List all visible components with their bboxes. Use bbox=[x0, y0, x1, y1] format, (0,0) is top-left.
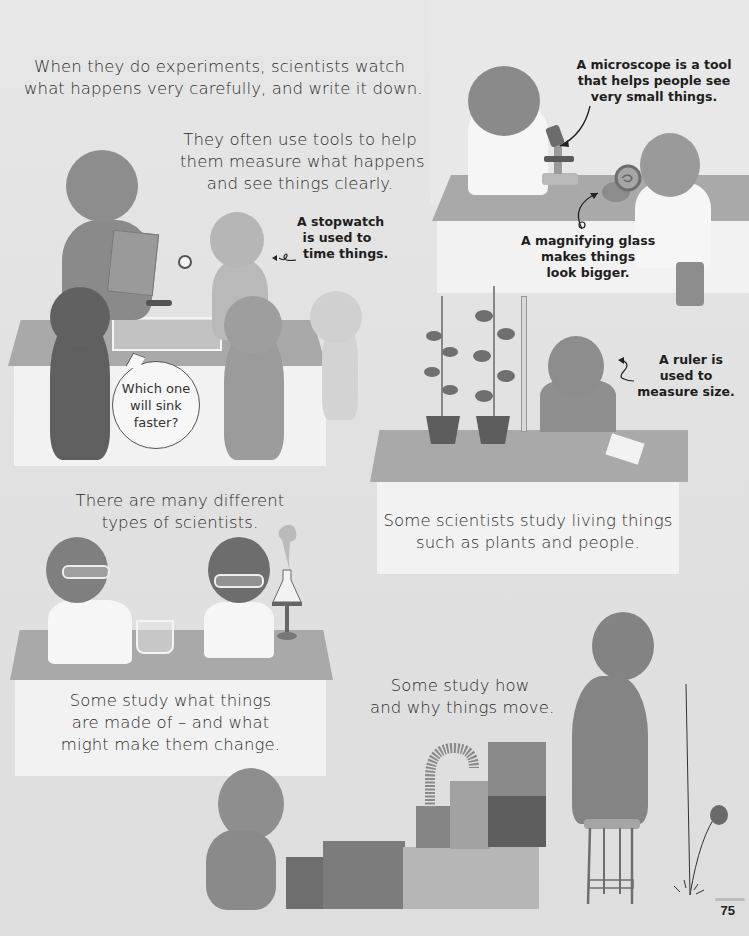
head bbox=[66, 150, 138, 222]
types-text: There are many different types of scient… bbox=[40, 490, 320, 534]
clipboard-icon bbox=[107, 230, 159, 296]
legs bbox=[676, 262, 704, 306]
head bbox=[208, 537, 270, 603]
head bbox=[548, 336, 604, 396]
materials-text: Some study what things are made of – and… bbox=[15, 690, 326, 756]
microscope-label: A microscope is a tool that helps people… bbox=[559, 57, 749, 105]
bouncing-ball bbox=[710, 805, 728, 825]
lab-coat bbox=[48, 600, 132, 664]
box bbox=[488, 795, 546, 847]
body bbox=[572, 676, 648, 824]
head bbox=[224, 296, 282, 354]
box bbox=[488, 742, 546, 796]
ruler-icon bbox=[521, 296, 527, 432]
safety-goggles bbox=[214, 574, 264, 588]
living-things-text: Some scientists study living things such… bbox=[377, 510, 679, 554]
tools-text: They often use tools to help them measur… bbox=[180, 129, 420, 195]
speech-bubble: Which one will sink faster? bbox=[112, 361, 200, 449]
water-tank bbox=[112, 317, 222, 351]
head bbox=[210, 212, 264, 268]
tomato-plants-icon bbox=[418, 286, 528, 446]
head bbox=[468, 66, 540, 136]
beaker-icon bbox=[136, 620, 174, 654]
flask-on-burner-icon bbox=[268, 530, 308, 650]
stopwatch-pointer-arrow-icon bbox=[270, 252, 306, 266]
lab-coat bbox=[204, 602, 274, 658]
body bbox=[206, 830, 276, 910]
slinky-spring-icon bbox=[422, 740, 482, 810]
magnifying-glass-label: A magnifying glass makes things look big… bbox=[508, 233, 668, 281]
magnifying-pointer-arrow-icon bbox=[570, 185, 610, 231]
safety-goggles bbox=[62, 565, 110, 579]
head bbox=[640, 133, 700, 197]
movement-text: Some study how and why things move. bbox=[370, 675, 550, 719]
intro-text: When they do experiments, scientists wat… bbox=[24, 56, 424, 100]
key-icon bbox=[146, 300, 172, 306]
stopwatch-label: A stopwatch is used to time things. bbox=[297, 214, 377, 262]
box bbox=[416, 806, 452, 848]
head bbox=[310, 291, 362, 343]
page-number: 75 bbox=[721, 903, 735, 918]
book-page: A microscope is a tool that helps people… bbox=[0, 0, 749, 936]
stool-legs-icon bbox=[586, 828, 636, 906]
ball-drop-path-icon bbox=[660, 680, 730, 900]
box bbox=[403, 847, 539, 909]
box bbox=[323, 841, 405, 909]
head bbox=[592, 612, 654, 680]
microscope-pointer-arrow-icon bbox=[556, 104, 596, 150]
head bbox=[50, 287, 110, 347]
stopwatch-icon bbox=[178, 255, 192, 269]
ruler-pointer-arrow-icon bbox=[616, 356, 640, 384]
